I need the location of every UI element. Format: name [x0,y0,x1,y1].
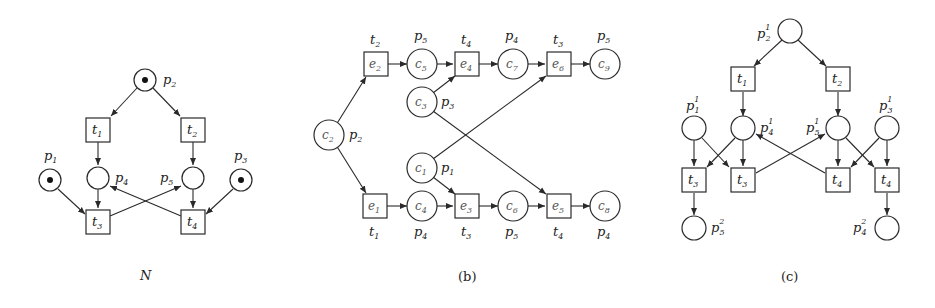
place-label: p5 [160,170,173,187]
place-label: p15 [806,117,820,137]
transition-t3b: t3 [731,168,755,192]
event-e1: e1 t1 [363,194,387,241]
arcs-n [58,88,233,216]
arc-p3-t4 [206,189,233,214]
condition-c1: c1 p1 [407,153,454,183]
place-circle [731,116,755,140]
transition-t1: t1 [86,118,110,142]
arc-p5-t4b [846,138,874,167]
place-p1-1: p11 [682,95,706,140]
panel-c: p12 p11 p14 p15 p13 p25 p24 t1 [682,19,899,284]
arc-p1-t3b [702,138,729,167]
panel-caption: (c) [781,269,798,284]
place-p2: p2 [134,69,176,91]
place-circle [778,19,802,43]
condition-map-label: p5 [505,224,518,241]
place-label: p3 [234,148,247,165]
arc-p4-t3a [707,138,735,167]
place-label: p11 [686,95,700,115]
panel-caption: (b) [458,269,476,284]
condition-c3: c3 p3 [407,87,454,117]
event-map-label: t4 [553,224,563,241]
condition-map-label: p4 [597,224,610,241]
token-dot [47,177,53,183]
token-dot [142,77,148,83]
event-map-label: t3 [553,32,563,49]
arc-p1-t3 [58,189,85,214]
transition-t3a: t3 [682,168,706,192]
place-label: p1 [44,148,57,165]
place-p3-1: p13 [875,95,899,140]
place-label: p13 [879,95,893,115]
transition-t2: t2 [826,67,850,91]
condition-c6: c6 p5 [498,191,528,241]
place-p4-1: p14 [731,116,774,140]
place-p2-1: p12 [757,19,802,43]
arc-c1-e3 [433,177,455,194]
panel-caption: N [139,268,152,283]
arcs-c [694,40,887,215]
arcs-b [336,64,590,206]
place-circle [87,167,109,189]
arc-c1-e6 [433,76,546,159]
condition-map-label: p2 [349,127,362,144]
condition-map-label: p4 [505,28,518,45]
event-e4: e4 t4 [455,32,479,76]
event-map-label: t3 [461,224,471,241]
event-e3: e3 t3 [455,194,479,241]
event-e2: e2 t2 [364,32,388,76]
place-p1: p1 [39,148,61,191]
place-p5-1: p15 [806,116,850,140]
place-label: p25 [711,217,725,237]
condition-map-label: p5 [597,28,610,45]
place-circle [182,167,204,189]
place-label: p14 [760,117,774,137]
event-map-label: t2 [370,32,380,49]
transition-t2: t2 [181,118,205,142]
arc-p2-t2 [153,88,180,116]
arc-c3-e4 [433,76,455,93]
transition-t3: t3 [86,210,110,234]
arc-p2-t1 [754,40,782,66]
event-map-label: t1 [369,224,379,241]
condition-c9: c9 p5 [590,28,620,79]
transition-t4a: t4 [826,168,850,192]
panel-b: c2 p2 c5 p5 c7 p4 c9 p5 c3 p3 c1 p1 [314,28,620,284]
condition-c2: c2 p2 [314,120,362,150]
condition-map-label: p1 [441,160,454,177]
arc-c2-e1 [336,145,366,193]
petri-net-figure: p2 p1 p3 p4 p5 t1 t2 [0,0,935,308]
event-map-label: t4 [461,32,471,49]
arc-p2-t1 [111,88,137,116]
arc-p2-t2 [798,40,826,66]
arc-p3-t4a [851,138,879,167]
place-label: p2 [163,72,176,89]
place-p4: p4 [87,167,128,189]
arc-c2-e2 [336,77,366,125]
condition-c7: c7 p4 [498,28,528,79]
transition-t1: t1 [731,67,755,91]
condition-c5: c5 p5 [407,28,437,79]
place-circle [875,216,899,240]
place-label: p12 [757,23,771,43]
transition-t4: t4 [181,210,205,234]
arc-c3-e5 [433,111,546,194]
condition-map-label: p4 [414,224,427,241]
condition-map-label: p3 [441,94,454,111]
condition-map-label: p5 [414,28,427,45]
place-p3: p3 [230,148,252,191]
place-p5: p5 [160,167,204,189]
place-label: p24 [853,217,867,237]
event-e6: e6 t3 [547,32,571,76]
place-circle [875,116,899,140]
place-circle [682,116,706,140]
transition-t4b: t4 [875,168,899,192]
condition-c4: c4 p4 [407,191,437,241]
place-circle [826,116,850,140]
panel-n: p2 p1 p3 p4 p5 t1 t2 [39,69,252,283]
place-label: p4 [115,170,128,187]
condition-c8: c8 p4 [590,191,620,241]
token-dot [238,177,244,183]
place-circle [682,216,706,240]
event-e5: e5 t4 [547,194,571,241]
